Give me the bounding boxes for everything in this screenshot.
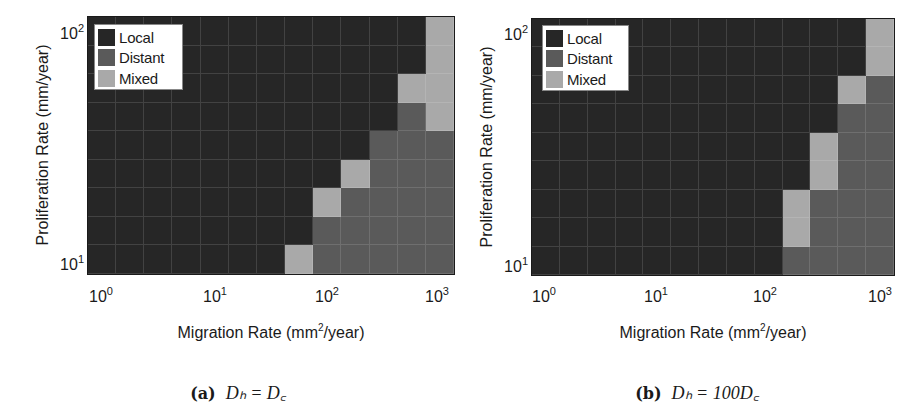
heatmap-cell-local (313, 131, 341, 160)
heatmap-cell-local (88, 103, 116, 132)
heatmap-cell-local (229, 245, 257, 274)
heatmap-cell-local (229, 217, 257, 246)
heatmap-cell-local (257, 160, 285, 189)
heatmap-cell-local (229, 188, 257, 217)
heatmap-cell-distant (398, 188, 426, 217)
heatmap-cell-distant (398, 217, 426, 246)
x-tick-1: 101 (644, 289, 668, 305)
heatmap-cell-local (201, 17, 229, 46)
swatch-mixed (546, 71, 563, 88)
heatmap-cell-local (783, 104, 811, 132)
heatmap-cell-local (532, 133, 560, 161)
heatmap-cell-local (285, 131, 313, 160)
heatmap-cell-local (201, 188, 229, 217)
heatmap-cell-local (257, 46, 285, 75)
heatmap-cell-local (755, 247, 783, 275)
swatch-local (546, 30, 563, 47)
heatmap-cell-distant (838, 218, 866, 246)
heatmap-cell-local (172, 131, 200, 160)
heatmap-cell-local (755, 161, 783, 189)
heatmap-cell-local (285, 217, 313, 246)
heatmap-cell-local (560, 218, 588, 246)
heatmap-cell-local (116, 131, 144, 160)
heatmap-cell-local (671, 104, 699, 132)
swatch-distant (98, 49, 115, 66)
heatmap-cell-mixed (810, 161, 838, 189)
swatch-distant (546, 50, 563, 67)
heatmap-cell-local (755, 19, 783, 47)
heatmap-cell-local (201, 46, 229, 75)
heatmap-cell-local (588, 247, 616, 275)
heatmap-cell-local (588, 161, 616, 189)
x-tick-1: 101 (203, 289, 227, 305)
heatmap-cell-local (172, 245, 200, 274)
heatmap-cell-local (810, 47, 838, 75)
heatmap-cell-local (643, 104, 671, 132)
heatmap-cell-local (699, 133, 727, 161)
heatmap-cell-local (671, 133, 699, 161)
heatmap-cell-distant (866, 190, 894, 218)
heatmap-cell-local (341, 46, 369, 75)
heatmap-cell-mixed (866, 47, 894, 75)
heatmap-cell-local (699, 76, 727, 104)
heatmap-cell-local (838, 47, 866, 75)
heatmap-cell-local (341, 17, 369, 46)
heatmap-cell-local (257, 131, 285, 160)
heatmap-cell-local (532, 247, 560, 275)
heatmap-cell-local (172, 160, 200, 189)
heatmap-cell-local (699, 47, 727, 75)
heatmap-cell-mixed (341, 160, 369, 189)
heatmap-cell-mixed (810, 133, 838, 161)
heatmap-cell-local (116, 245, 144, 274)
heatmap-cell-local (229, 46, 257, 75)
y-axis-label: Proliferation Rate (mm/year) (35, 45, 51, 246)
heatmap-cell-distant (838, 133, 866, 161)
y-tick-bottom: 101 (504, 259, 528, 275)
heatmap-cell-local (783, 19, 811, 47)
heatmap-cell-mixed (783, 190, 811, 218)
heatmap-cell-local (201, 245, 229, 274)
heatmap-cell-local (810, 76, 838, 104)
x-tick-0: 100 (532, 289, 556, 305)
x-tick-0: 100 (89, 289, 113, 305)
heatmap-cell-local (370, 17, 398, 46)
heatmap-cell-local (257, 188, 285, 217)
heatmap-cell-local (671, 190, 699, 218)
heatmap-cell-local (616, 218, 644, 246)
heatmap-cell-local (313, 46, 341, 75)
heatmap-cell-local (341, 131, 369, 160)
legend-item-distant: Distant (98, 48, 178, 69)
heatmap-cell-local (201, 103, 229, 132)
heatmap-cell-local (699, 19, 727, 47)
heatmap-cell-local (172, 188, 200, 217)
heatmap-cell-local (341, 74, 369, 103)
heatmap-cell-local (257, 217, 285, 246)
y-axis-label: Proliferation Rate (mm/year) (479, 47, 495, 248)
figure-caption-a: (a)Dₕ = D꜀ (190, 380, 286, 404)
heatmap-cell-local (285, 46, 313, 75)
heatmap-cell-distant (313, 217, 341, 246)
heatmap-cell-local (144, 188, 172, 217)
heatmap-cell-distant (341, 188, 369, 217)
heatmap-cell-local (398, 17, 426, 46)
heatmap-cell-local (699, 104, 727, 132)
heatmap-cell-local (643, 190, 671, 218)
heatmap-cell-local (560, 247, 588, 275)
heatmap-cell-local (616, 247, 644, 275)
heatmap-cell-local (370, 46, 398, 75)
heatmap-cell-local (201, 160, 229, 189)
heatmap-cell-local (783, 161, 811, 189)
heatmap-cell-local (560, 190, 588, 218)
heatmap-cell-local (201, 217, 229, 246)
x-tick-2: 102 (753, 289, 777, 305)
heatmap-cell-local (616, 133, 644, 161)
heatmap-cell-local (257, 245, 285, 274)
swatch-mixed (98, 70, 115, 87)
heatmap-cell-local (229, 74, 257, 103)
heatmap-cell-local (370, 103, 398, 132)
heatmap-cell-local (313, 103, 341, 132)
heatmap-cell-local (755, 76, 783, 104)
heatmap-cell-distant (370, 160, 398, 189)
heatmap-cell-local (532, 104, 560, 132)
heatmap-cell-local (616, 161, 644, 189)
